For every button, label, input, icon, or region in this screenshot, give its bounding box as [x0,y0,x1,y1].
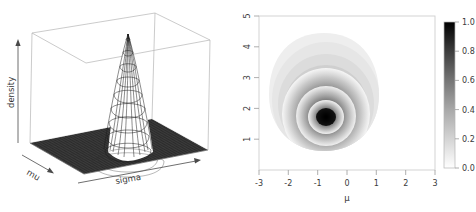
xtick-label: -2 [284,179,292,188]
ytick-label: 1 [243,137,252,142]
yaxis-ticks [254,16,259,139]
colorbar-label: 0.6 [462,76,475,85]
panel-3d-surface: density mu sigma [0,0,238,212]
figure-canvas: density mu sigma [0,0,476,212]
colorbar-label: 0.2 [462,135,475,144]
colorbar-gradient [444,22,455,168]
axis-mu: mu [22,155,54,183]
ytick-label: 2 [243,106,252,111]
axis-density: density [6,39,21,143]
axis-label-mu: mu [25,167,42,182]
surface-3d-svg: density mu sigma [0,0,238,212]
xtick-label: 3 [432,179,437,188]
colorbar-label: 0.0 [462,164,475,173]
axis-label-mu: μ [344,193,350,203]
axis-label-density: density [6,77,16,108]
xtick-label: 1 [374,179,379,188]
colorbar-ticks [455,22,459,168]
colorbar: 0.0 0.2 0.4 0.6 0.8 1.0 [444,18,475,173]
axis-label-sigma: sigma [115,172,142,186]
ytick-label: 5 [243,13,252,18]
ytick-label: 4 [243,44,252,49]
ytick-label: 3 [243,75,252,80]
xaxis-tick-labels: -3 -2 -1 0 1 2 3 [255,179,438,188]
xtick-label: 2 [403,179,408,188]
colorbar-label: 0.4 [462,106,475,115]
colorbar-tick-labels: 0.0 0.2 0.4 0.6 0.8 1.0 [462,18,475,173]
yaxis-tick-labels: 1 2 3 4 5 [243,13,252,141]
panel-density-heatmap: -3 -2 -1 0 1 2 3 μ 1 2 3 4 [238,0,476,212]
xtick-label: -3 [255,179,263,188]
colorbar-label: 1.0 [462,18,475,27]
heatmap-svg: -3 -2 -1 0 1 2 3 μ 1 2 3 4 [238,0,476,212]
density-peak-surface [92,34,164,177]
xtick-label: 0 [344,179,349,188]
xtick-label: -1 [314,179,322,188]
xaxis-ticks [259,170,435,175]
colorbar-label: 0.8 [462,47,475,56]
